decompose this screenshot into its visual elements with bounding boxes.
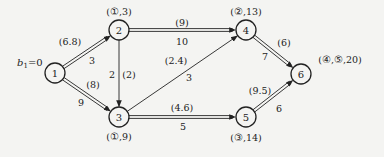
node-label: 6 [298,69,304,80]
network-diagram: 123456 3(6.8)9(8)10(9)2(2)3(2.4)5(4.6)7(… [0,0,384,157]
edge-weight-label: 3 [89,55,95,66]
edge-weight-label: 2 [109,69,115,80]
edge-flow-label: (6.8) [59,36,82,47]
node-annotation: (①,9) [106,131,131,142]
node-6: 6 [291,64,311,84]
labels: 3(6.8)9(8)10(9)2(2)3(2.4)5(4.6)7(6)6(9.5… [59,6,362,143]
node-annotation: (④,⑤,20) [318,54,362,65]
node-3: 3 [109,107,129,127]
edge-flow-label: (2.4) [165,55,188,66]
edge-weight-label: 3 [186,72,192,83]
edge-flow-label: (2) [122,69,135,80]
edge-weight-label: 7 [262,51,268,62]
edge-weight-label: 5 [180,121,186,132]
node-label: 1 [52,68,58,79]
edge-flow-label: (4.6) [171,102,194,113]
node-1: 1 [45,63,65,83]
node-label: 3 [116,112,122,123]
edge-flow-label: (8) [86,79,99,90]
node-4: 4 [236,20,256,40]
edge-weight-label: 6 [276,103,282,114]
edge-weight-label: 10 [176,36,188,47]
node-5: 5 [236,107,256,127]
edge-3-5 [129,116,236,119]
edge-flow-label: (9.5) [249,85,272,96]
node-annotation: (②,13) [230,6,262,17]
edge-3-4 [127,36,237,111]
edge-2-4 [129,29,236,32]
node-label: 2 [116,25,122,36]
node-annotation: (①,3) [106,6,131,17]
edge-weight-label: 9 [78,97,84,108]
node-2: 2 [109,20,129,40]
edge-flow-label: (9) [175,17,188,28]
node-annotation: (③,14) [230,132,262,143]
node-label: 4 [243,25,249,36]
start-label: b1=0 [17,57,43,70]
node-label: 5 [243,112,249,123]
edge-flow-label: (6) [277,37,290,48]
